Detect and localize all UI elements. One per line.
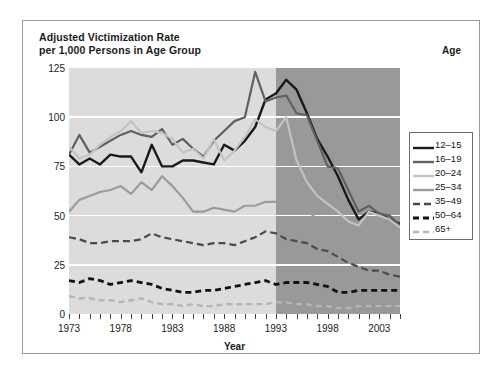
x-tickmark-1983	[172, 314, 173, 319]
series-line-35-49	[69, 231, 400, 276]
x-tickmark-1973	[69, 314, 70, 319]
legend-label: 35–49	[435, 195, 461, 206]
x-tick-label-1983: 1983	[161, 323, 183, 334]
series-line-25-34	[69, 176, 400, 263]
x-tickmark-1978	[121, 314, 122, 319]
x-tickmark-1997	[317, 314, 318, 319]
legend-item-65+[interactable]: 65+	[413, 221, 469, 235]
x-tick-label-2003: 2003	[368, 323, 390, 334]
x-tick-label-1998: 1998	[316, 323, 338, 334]
legend-label: 16–19	[435, 153, 461, 164]
y-tick-label-50: 50	[54, 210, 65, 221]
chart-legend: 12–1516–1920–2425–3435–4950–6465+	[409, 132, 473, 240]
x-tickmark-1976	[100, 314, 101, 319]
x-tick-label-1988: 1988	[213, 323, 235, 334]
x-tickmark-1990	[245, 314, 246, 319]
y-tick-label-125: 125	[48, 63, 65, 74]
legend-swatch-icon-12-15	[413, 139, 434, 149]
x-tickmark-2002	[369, 314, 370, 319]
x-tickmark-1977	[110, 314, 111, 319]
legend-label: 25–34	[435, 181, 461, 192]
y-tick-label-0: 0	[59, 309, 65, 320]
legend-swatch-icon-20-24	[413, 167, 434, 177]
legend-swatch-icon-65+	[413, 223, 434, 233]
chart-figure: Adjusted Victimization Rate per 1,000 Pe…	[22, 20, 480, 354]
x-tickmark-1975	[90, 314, 91, 319]
x-tickmark-1998	[328, 314, 329, 319]
x-tickmark-1991	[255, 314, 256, 319]
legend-label: 50–64	[435, 209, 461, 220]
x-tickmark-1974	[79, 314, 80, 319]
legend-swatch-icon-25-34	[413, 181, 434, 191]
plot-area	[69, 68, 400, 314]
y-tick-label-100: 100	[48, 112, 65, 123]
x-tick-label-1973: 1973	[58, 323, 80, 334]
x-tickmark-1982	[162, 314, 163, 319]
legend-swatch-icon-35-49	[413, 195, 434, 205]
x-tick-label-1978: 1978	[110, 323, 132, 334]
y-axis-ticks: 0255075100125	[27, 68, 65, 314]
x-tickmark-1995	[297, 314, 298, 319]
x-axis-title: Year	[69, 341, 400, 352]
x-tickmark-1993	[276, 314, 277, 319]
x-tickmark-1987	[214, 314, 215, 319]
x-axis-labels: 1973197819831988199319982003	[23, 323, 443, 339]
x-tickmark-1994	[286, 314, 287, 319]
x-tickmark-2003	[379, 314, 380, 319]
legend-item-16-19[interactable]: 16–19	[413, 151, 469, 165]
x-tickmark-1985	[193, 314, 194, 319]
x-tickmark-1979	[131, 314, 132, 319]
legend-swatch-icon-16-19	[413, 153, 434, 163]
legend-item-20-24[interactable]: 20–24	[413, 165, 469, 179]
legend-label: 20–24	[435, 167, 461, 178]
legend-swatch-icon-50-64	[413, 209, 434, 219]
y-tick-label-75: 75	[54, 161, 65, 172]
x-tickmark-1992	[266, 314, 267, 319]
legend-title-age: Age	[442, 45, 461, 56]
x-tickmark-1981	[152, 314, 153, 319]
x-tickmark-1999	[338, 314, 339, 319]
x-tickmark-2001	[359, 314, 360, 319]
x-tickmark-1996	[307, 314, 308, 319]
x-tickmark-1988	[224, 314, 225, 319]
legend-item-50-64[interactable]: 50–64	[413, 207, 469, 221]
x-tickmark-2000	[348, 314, 349, 319]
legend-item-35-49[interactable]: 35–49	[413, 193, 469, 207]
x-tickmark-2004	[390, 314, 391, 319]
series-lines	[69, 68, 400, 314]
x-tickmark-1989	[235, 314, 236, 319]
x-axis-tickmarks	[69, 314, 400, 321]
x-tickmark-1984	[183, 314, 184, 319]
y-tick-label-25: 25	[54, 259, 65, 270]
x-tickmark-1986	[203, 314, 204, 319]
legend-label: 65+	[435, 223, 451, 234]
series-line-65+	[69, 296, 400, 308]
legend-item-12-15[interactable]: 12–15	[413, 137, 469, 151]
series-line-50-64	[69, 279, 400, 293]
x-tick-label-1993: 1993	[265, 323, 287, 334]
x-tickmark-1980	[141, 314, 142, 319]
legend-item-25-34[interactable]: 25–34	[413, 179, 469, 193]
legend-label: 12–15	[435, 139, 461, 150]
chart-title: Adjusted Victimization Rate per 1,000 Pe…	[39, 31, 201, 57]
x-tickmark-2005	[400, 314, 401, 319]
